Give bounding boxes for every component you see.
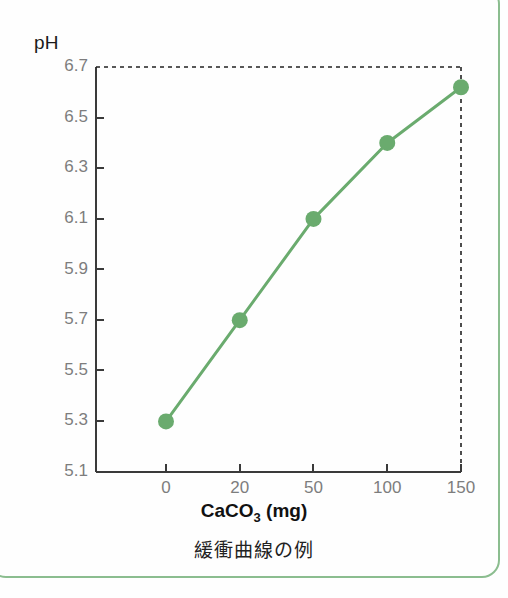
x-axis-title-formula: CaCO	[201, 500, 254, 521]
y-tick-marks	[96, 118, 104, 421]
figure-caption: 緩衝曲線の例	[0, 535, 508, 562]
data-point	[158, 413, 174, 429]
x-axis-title-subscript: 3	[254, 510, 261, 525]
data-point-markers	[158, 79, 469, 429]
y-tick-label: 6.5	[42, 107, 88, 127]
x-tick-label: 150	[447, 478, 475, 498]
chart-area: pH 6.76.56.	[0, 0, 508, 598]
x-tick-label: 50	[304, 478, 323, 498]
y-tick-label: 6.1	[42, 208, 88, 228]
x-tick-label: 20	[230, 478, 249, 498]
data-point	[379, 135, 395, 151]
x-tick-label: 100	[373, 478, 401, 498]
y-tick-label: 6.3	[42, 157, 88, 177]
y-tick-label: 5.3	[42, 410, 88, 430]
x-tick-label: 0	[161, 478, 170, 498]
y-tick-label: 6.7	[42, 56, 88, 76]
x-axis-title: CaCO3 (mg)	[0, 500, 508, 525]
y-tick-label: 5.5	[42, 360, 88, 380]
x-tick-marks	[166, 464, 461, 472]
data-point	[306, 211, 322, 227]
y-tick-label: 5.9	[42, 259, 88, 279]
data-series-line	[166, 87, 461, 421]
y-tick-label: 5.7	[42, 309, 88, 329]
x-axis-title-unit: (mg)	[261, 500, 307, 521]
data-point	[453, 79, 469, 95]
data-point	[232, 312, 248, 328]
